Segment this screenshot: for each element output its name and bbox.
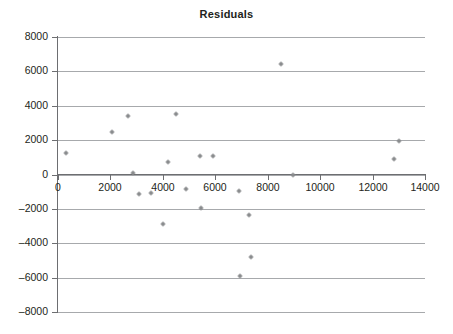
x-axis-label: 10000 (305, 181, 334, 193)
y-axis-label: –6000 (2, 271, 48, 283)
y-axis-label: –2000 (2, 202, 48, 214)
data-point (392, 158, 395, 161)
data-point (150, 191, 153, 194)
gridline-y (58, 312, 425, 313)
y-axis-tick (52, 140, 58, 141)
data-point (126, 115, 129, 118)
x-axis-label: 8000 (256, 181, 279, 193)
gridline-y (58, 278, 425, 279)
y-axis-label: 2000 (2, 133, 48, 145)
y-axis-tick (52, 243, 58, 244)
y-axis-tick (52, 106, 58, 107)
x-axis-label: 0 (55, 181, 61, 193)
data-point (239, 274, 242, 277)
x-axis-label: 12000 (358, 181, 387, 193)
x-axis-tick (268, 175, 269, 180)
data-point (64, 152, 67, 155)
y-axis-label: 8000 (2, 30, 48, 42)
data-point (248, 213, 251, 216)
chart-title: Residuals (0, 8, 453, 20)
y-axis-tick (52, 312, 58, 313)
data-point (211, 154, 214, 157)
y-axis-tick (52, 37, 58, 38)
data-point (397, 140, 400, 143)
data-point (199, 207, 202, 210)
y-axis-label: 4000 (2, 99, 48, 111)
x-axis-label: 2000 (98, 181, 121, 193)
x-axis-tick (163, 175, 164, 180)
x-axis-tick (58, 175, 59, 180)
data-point (279, 62, 282, 65)
data-point (161, 222, 164, 225)
x-axis-label: 6000 (203, 181, 226, 193)
data-point (198, 154, 201, 157)
data-point (175, 113, 178, 116)
y-axis-label: –8000 (2, 305, 48, 317)
data-point (110, 131, 113, 134)
data-point (185, 188, 188, 191)
gridline-y (58, 243, 425, 244)
x-axis-tick (215, 175, 216, 180)
data-point (291, 173, 294, 176)
gridline-y (58, 140, 425, 141)
y-axis-tick (52, 278, 58, 279)
x-axis-label: 14000 (410, 181, 439, 193)
data-point (138, 193, 141, 196)
gridline-y (58, 209, 425, 210)
x-axis-tick (425, 175, 426, 180)
x-axis-tick (320, 175, 321, 180)
data-point (131, 171, 134, 174)
gridline-y (58, 175, 425, 176)
y-axis-label: 0 (2, 168, 48, 180)
x-axis-line (57, 174, 426, 175)
x-axis-label: 4000 (151, 181, 174, 193)
y-axis-tick (52, 209, 58, 210)
data-point (237, 189, 240, 192)
data-point (167, 160, 170, 163)
gridline-y (58, 106, 425, 107)
residuals-chart: Residuals 80006000400020000–2000–4000–60… (0, 0, 453, 334)
gridline-y (58, 71, 425, 72)
y-axis-tick (52, 71, 58, 72)
x-axis-tick (373, 175, 374, 180)
gridline-y (58, 37, 425, 38)
x-axis-tick (110, 175, 111, 180)
y-axis-label: –4000 (2, 236, 48, 248)
y-axis-label: 6000 (2, 64, 48, 76)
data-point (249, 256, 252, 259)
